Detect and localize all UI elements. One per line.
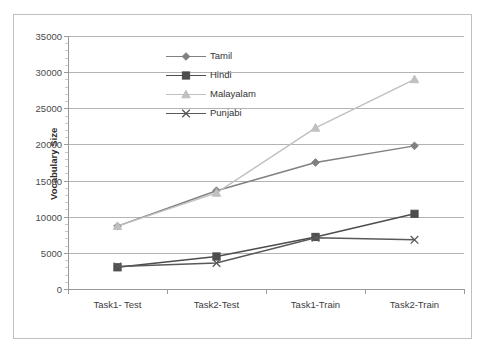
legend-marker-icon [166, 104, 206, 123]
legend-item-punjabi[interactable]: Punjabi [166, 104, 270, 123]
data-point-marker [411, 210, 418, 217]
series-tamil [114, 142, 419, 230]
data-point-marker [311, 124, 319, 132]
legend-marker-icon [166, 47, 206, 66]
data-point-marker [182, 90, 190, 98]
legend-item-malayalam[interactable]: Malayalam [166, 85, 270, 104]
data-point-marker [312, 159, 320, 167]
legend-item-hindi[interactable]: Hindi [166, 66, 270, 85]
data-point-marker [182, 53, 190, 61]
chart-figure: Vocabulary Size 050001000015000200002500… [0, 0, 486, 353]
data-point-marker [410, 75, 418, 83]
data-point-marker [411, 142, 419, 150]
data-point-marker [213, 253, 220, 260]
legend-label: Hindi [210, 69, 232, 80]
series-hindi [114, 210, 418, 271]
data-point-marker [182, 110, 190, 118]
data-point-marker [182, 72, 189, 79]
legend-marker-icon [166, 85, 206, 104]
legend-marker-icon [166, 66, 206, 85]
chart-legend: TamilHindiMalayalamPunjabi [166, 47, 270, 123]
legend-label: Malayalam [210, 88, 256, 99]
legend-label: Punjabi [210, 107, 242, 118]
legend-label: Tamil [210, 50, 232, 61]
legend-item-tamil[interactable]: Tamil [166, 47, 270, 66]
series-punjabi [114, 234, 419, 271]
